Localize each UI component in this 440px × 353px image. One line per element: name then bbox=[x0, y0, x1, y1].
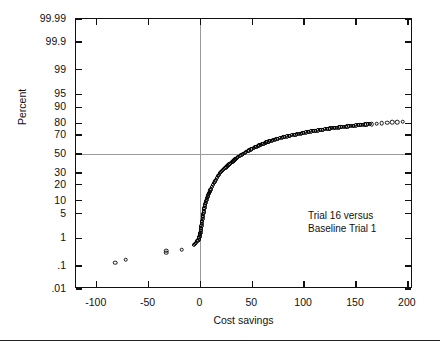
x-tick-mark bbox=[148, 281, 149, 287]
y-tick-mark bbox=[405, 200, 411, 201]
y-tick-label: 70 bbox=[54, 128, 66, 140]
y-tick-mark bbox=[405, 172, 411, 173]
data-point bbox=[374, 121, 379, 126]
data-point bbox=[385, 121, 390, 126]
data-point bbox=[123, 257, 128, 262]
data-point bbox=[208, 188, 212, 192]
y-tick-mark bbox=[76, 184, 82, 185]
y-tick-label: 30 bbox=[54, 166, 66, 178]
x-axis-tick-labels: -100-50050100150200 bbox=[75, 296, 412, 312]
y-tick-label: .1 bbox=[57, 259, 66, 271]
data-point bbox=[380, 121, 385, 126]
y-tick-mark bbox=[76, 172, 82, 173]
y-tick-mark bbox=[405, 107, 411, 108]
data-point bbox=[179, 247, 184, 252]
y-tick-label: 5 bbox=[60, 207, 66, 219]
y-tick-mark bbox=[405, 288, 411, 289]
y-tick-mark bbox=[76, 238, 82, 239]
x-tick-label: -50 bbox=[140, 296, 155, 308]
y-axis-tick-labels: 99.9999.999959080705030201051.1.01 bbox=[0, 18, 70, 288]
x-tick-mark bbox=[303, 281, 304, 287]
y-tick-mark bbox=[76, 213, 82, 214]
y-tick-label: 1 bbox=[60, 231, 66, 243]
y-tick-mark bbox=[405, 94, 411, 95]
data-point bbox=[193, 242, 197, 246]
y-tick-mark bbox=[76, 153, 82, 154]
x-tick-mark bbox=[96, 19, 97, 25]
plot-frame: Trial 16 versus Baseline Trial 1 bbox=[75, 18, 412, 288]
y-tick-mark bbox=[76, 69, 82, 70]
y-tick-mark bbox=[405, 153, 411, 154]
y-tick-label: 80 bbox=[54, 116, 66, 128]
data-point bbox=[395, 120, 400, 125]
x-tick-label: 200 bbox=[398, 296, 416, 308]
reference-line-vertical bbox=[200, 19, 201, 287]
y-tick-mark bbox=[405, 238, 411, 239]
bottom-divider bbox=[0, 340, 440, 341]
annotation-line-1: Trial 16 versus bbox=[308, 209, 376, 222]
x-tick-mark bbox=[355, 19, 356, 25]
y-tick-mark bbox=[76, 123, 82, 124]
y-tick-label: 20 bbox=[54, 178, 66, 190]
y-tick-label: 99 bbox=[54, 63, 66, 75]
x-tick-label: 0 bbox=[197, 296, 203, 308]
y-tick-label: 99.99 bbox=[40, 12, 66, 24]
data-point bbox=[113, 260, 118, 265]
y-tick-mark bbox=[76, 41, 82, 42]
x-tick-label: 150 bbox=[346, 296, 364, 308]
x-tick-label: -100 bbox=[85, 296, 106, 308]
x-tick-mark bbox=[303, 19, 304, 25]
plot-area bbox=[76, 19, 411, 287]
chart-container: Percent 99.9999.999959080705030201051.1.… bbox=[0, 0, 440, 353]
y-tick-label: 99.9 bbox=[46, 35, 66, 47]
x-tick-label: 50 bbox=[245, 296, 257, 308]
y-tick-mark bbox=[76, 107, 82, 108]
x-tick-label: 100 bbox=[294, 296, 312, 308]
y-tick-mark bbox=[405, 41, 411, 42]
x-tick-mark bbox=[252, 19, 253, 25]
x-tick-mark bbox=[148, 19, 149, 25]
y-tick-mark bbox=[405, 134, 411, 135]
y-tick-label: 50 bbox=[54, 147, 66, 159]
y-tick-mark bbox=[405, 213, 411, 214]
y-tick-label: .01 bbox=[51, 282, 66, 294]
y-tick-label: 90 bbox=[54, 100, 66, 112]
x-axis-title: Cost savings bbox=[75, 314, 412, 326]
y-tick-label: 95 bbox=[54, 87, 66, 99]
data-point bbox=[164, 249, 169, 254]
y-tick-mark bbox=[405, 184, 411, 185]
y-tick-mark bbox=[405, 123, 411, 124]
y-tick-mark bbox=[405, 69, 411, 70]
y-tick-mark bbox=[76, 94, 82, 95]
y-tick-label: 10 bbox=[54, 194, 66, 206]
y-tick-mark bbox=[405, 265, 411, 266]
y-tick-mark bbox=[76, 288, 82, 289]
x-tick-mark bbox=[252, 281, 253, 287]
annotation-line-2: Baseline Trial 1 bbox=[308, 222, 376, 235]
y-tick-mark bbox=[76, 265, 82, 266]
data-point bbox=[390, 120, 395, 125]
x-tick-mark bbox=[96, 281, 97, 287]
x-tick-mark bbox=[407, 281, 408, 287]
x-tick-mark bbox=[200, 281, 201, 287]
plot-annotation: Trial 16 versus Baseline Trial 1 bbox=[308, 209, 376, 235]
y-tick-mark bbox=[76, 134, 82, 135]
x-tick-mark bbox=[407, 19, 408, 25]
x-tick-mark bbox=[355, 281, 356, 287]
y-tick-mark bbox=[76, 18, 82, 19]
y-tick-mark bbox=[76, 200, 82, 201]
x-tick-mark bbox=[200, 19, 201, 25]
